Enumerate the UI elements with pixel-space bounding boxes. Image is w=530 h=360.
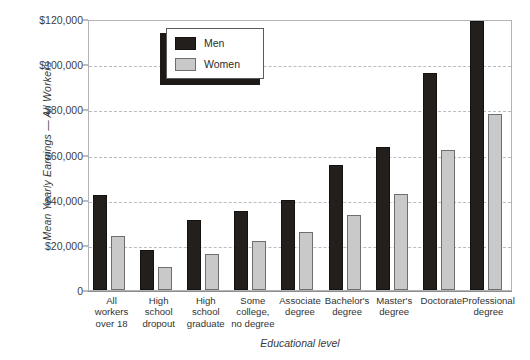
legend-label: Men: [204, 37, 224, 49]
x-axis-tick-labels: Allworkersover 18HighschooldropoutHighsc…: [88, 295, 512, 341]
y-axis-tick-labels: 0$20,000$40,000$60,000$80,000$100,000$12…: [0, 0, 88, 360]
bar-women[interactable]: [394, 194, 408, 290]
bar-group: [466, 21, 513, 290]
y-tick-label: $40,000: [45, 195, 83, 207]
x-tick-label-line: degree: [459, 306, 518, 317]
legend-box: MenWomen: [166, 28, 264, 79]
bar-group: [325, 21, 372, 290]
bar-group: [419, 21, 466, 290]
y-tick-label: $100,000: [39, 59, 83, 71]
bar-women[interactable]: [205, 254, 219, 290]
bars-layer: [89, 21, 511, 290]
bar-men[interactable]: [187, 220, 201, 290]
bar-group: [277, 21, 324, 290]
bar-women[interactable]: [252, 241, 266, 290]
bar-group: [89, 21, 136, 290]
y-tick-label: $20,000: [45, 240, 83, 252]
bar-women[interactable]: [158, 267, 172, 290]
bar-men[interactable]: [423, 73, 437, 290]
bar-men[interactable]: [376, 147, 390, 290]
y-tick-label: $120,000: [39, 14, 83, 26]
bar-women[interactable]: [299, 232, 313, 290]
bar-women[interactable]: [488, 114, 502, 290]
legend-swatch-men: [175, 37, 196, 50]
bar-men[interactable]: [329, 165, 343, 290]
x-axis-line: [88, 291, 512, 292]
bar-men[interactable]: [281, 200, 295, 290]
legend-entry-men[interactable]: Men: [175, 34, 224, 52]
legend: MenWomen: [160, 28, 264, 85]
x-tick-label-line: Professional: [459, 295, 518, 306]
bar-men[interactable]: [140, 250, 154, 290]
y-tick-label: $80,000: [45, 104, 83, 116]
plot-area: [88, 20, 512, 291]
x-tick-label-line: degree: [365, 306, 424, 317]
bar-men[interactable]: [234, 211, 248, 290]
bar-women[interactable]: [441, 150, 455, 290]
bar-group: [372, 21, 419, 290]
legend-swatch-women: [175, 58, 196, 71]
y-tick-label: $60,000: [45, 150, 83, 162]
bar-chart-figure: Mean Yearly Earnings — All Workers 0$20,…: [0, 0, 530, 360]
legend-label: Women: [204, 58, 240, 70]
bar-men[interactable]: [470, 21, 484, 290]
x-tick-label-line: no degree: [223, 318, 282, 329]
x-tick-label: Professionaldegree: [459, 295, 518, 318]
bar-men[interactable]: [93, 195, 107, 290]
x-axis-title: Educational level: [88, 337, 512, 349]
bar-women[interactable]: [347, 215, 361, 290]
legend-entry-women[interactable]: Women: [175, 55, 240, 73]
bar-women[interactable]: [111, 236, 125, 290]
